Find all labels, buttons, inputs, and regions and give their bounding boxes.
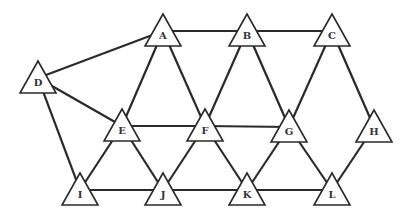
- node-label: H: [369, 126, 378, 137]
- graph-diagram: ABCDEFGHIJKL: [0, 0, 410, 219]
- node-label: D: [34, 77, 43, 88]
- node-d: D: [20, 61, 56, 93]
- node-label: A: [158, 30, 167, 41]
- node-label: J: [160, 189, 166, 200]
- node-label: B: [243, 30, 251, 41]
- node-label: G: [285, 126, 294, 137]
- node-label: E: [118, 125, 126, 136]
- edge-d-i: [38, 78, 80, 190]
- node-label: C: [328, 30, 336, 41]
- node-label: F: [201, 125, 208, 136]
- node-label: L: [328, 189, 335, 200]
- node-label: K: [243, 189, 252, 200]
- node-h: H: [356, 110, 392, 142]
- edge-a-d: [38, 31, 163, 78]
- node-label: I: [78, 189, 83, 200]
- edge-f-g: [205, 126, 289, 127]
